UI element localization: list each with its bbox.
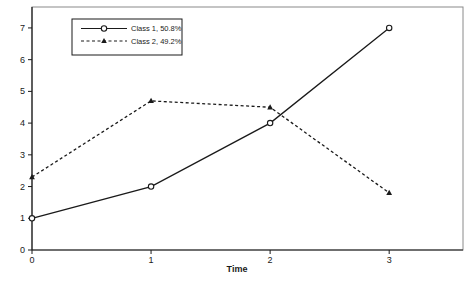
x-tick-label: 0 bbox=[29, 255, 34, 265]
circle-marker bbox=[386, 25, 391, 30]
circle-marker bbox=[148, 184, 153, 189]
y-tick-label: 0 bbox=[20, 245, 25, 255]
line-chart-figure: 012301234567Class 1, 50.8%Class 2, 49.2%… bbox=[0, 0, 471, 286]
legend-label: Class 1, 50.8% bbox=[131, 24, 182, 33]
y-tick-label: 4 bbox=[20, 118, 25, 128]
y-tick-label: 6 bbox=[20, 55, 25, 65]
circle-marker bbox=[29, 216, 34, 221]
legend-circle-marker bbox=[101, 26, 106, 31]
x-axis-title: Time bbox=[227, 264, 248, 274]
circle-marker bbox=[267, 120, 272, 125]
x-tick-label: 1 bbox=[149, 255, 154, 265]
y-tick-label: 3 bbox=[20, 150, 25, 160]
x-tick-label: 3 bbox=[387, 255, 392, 265]
y-tick-label: 7 bbox=[20, 23, 25, 33]
chart-svg: 012301234567Class 1, 50.8%Class 2, 49.2%… bbox=[0, 0, 471, 286]
figure-background bbox=[0, 0, 471, 286]
legend-label: Class 2, 49.2% bbox=[131, 37, 182, 46]
y-tick-label: 1 bbox=[20, 213, 25, 223]
x-tick-label: 2 bbox=[268, 255, 273, 265]
y-tick-label: 5 bbox=[20, 86, 25, 96]
y-tick-label: 2 bbox=[20, 182, 25, 192]
